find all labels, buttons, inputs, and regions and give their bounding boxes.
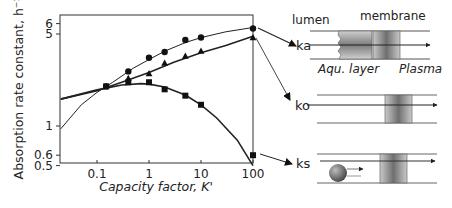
aqueous-layer-label: Aqu. layer [317,62,380,76]
data-point-ks [103,83,109,89]
curve-ka [61,28,253,129]
curve-ks [61,84,253,166]
data-point-ks [182,93,188,99]
data-point-ka [161,49,167,55]
y-tick-label: 0.6 [34,148,53,162]
absorption-chart: 0.50.6156 0.1110100 Capacity factor, K' … [0,0,452,208]
data-point-ka [198,34,204,40]
data-point-ks [146,79,152,85]
data-point-ka [182,37,188,43]
membrane-block [385,95,412,123]
data-point-ks [125,79,131,85]
diagram-row-ko: ko [295,95,437,123]
y-axis-ticks: 0.50.6156 [34,17,60,173]
arrow-to-ko [256,38,290,100]
series-curves [61,28,253,166]
x-axis-label: Capacity factor, K' [99,179,213,194]
arrow-to-ka [258,28,296,46]
data-point-ka [146,55,152,61]
ks-label: ks [296,156,311,171]
connector-arrows [256,28,296,164]
membrane-label: membrane [360,9,426,23]
y-tick-label: 6 [45,17,53,31]
plasma-label: Plasma [399,62,442,76]
arrow-to-ks [260,154,292,164]
y-tick-label: 1 [45,119,53,133]
data-point-ka [250,25,256,31]
data-point-ko [161,60,168,66]
diagram-row-ks: ks [296,154,437,183]
data-point-ks [250,152,256,158]
data-point-ko [198,48,205,54]
ka-label: ka [296,38,311,53]
membrane-block [380,154,407,183]
data-point-ks [198,102,204,108]
particle-icon [329,164,347,182]
y-axis-label: Absorption rate constant, h⁻¹ [11,0,26,179]
plot-area [60,15,253,163]
x-tick-label: 100 [242,167,265,181]
lumen-label: lumen [292,13,330,27]
data-point-ka [125,68,131,74]
data-point-ks [162,86,168,92]
ko-label: ko [295,98,310,113]
diagram-row-ka: lumen membrane ka Aqu. layer Plasma [292,9,442,76]
data-point-ko [182,52,189,58]
curve-ko [61,36,253,99]
